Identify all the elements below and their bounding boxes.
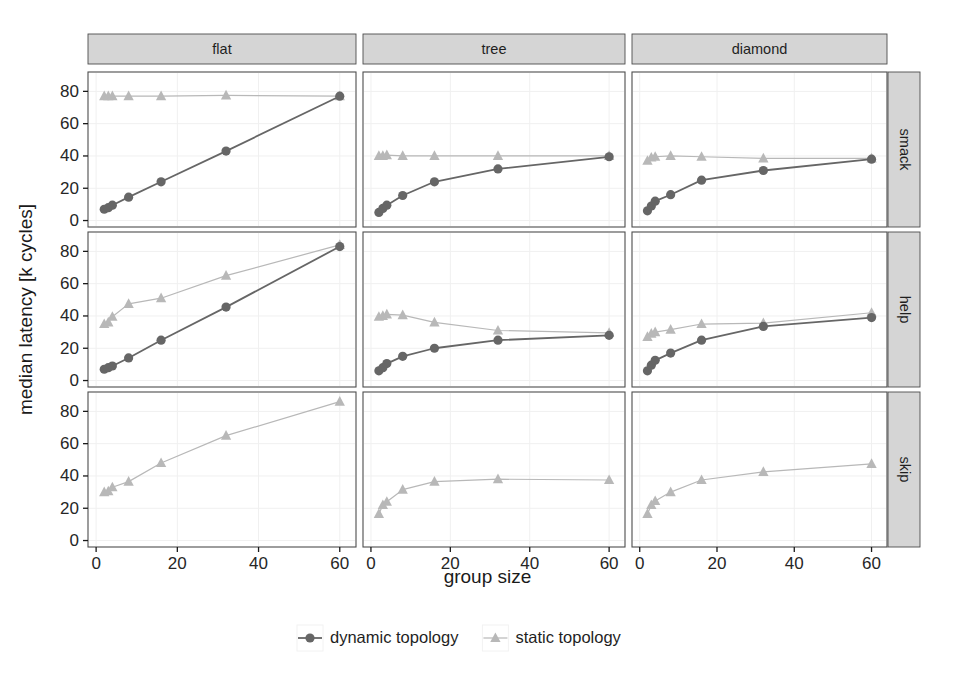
data-point-dynamic bbox=[382, 359, 391, 368]
data-point-dynamic bbox=[382, 201, 391, 210]
panel-tree-smack bbox=[363, 72, 625, 227]
data-point-dynamic bbox=[430, 344, 439, 353]
y-axis-title: median latency [k cycles] bbox=[15, 204, 36, 415]
x-tick-label: 40 bbox=[785, 554, 804, 573]
panel-flat-skip bbox=[88, 392, 356, 547]
y-tick-label: 40 bbox=[60, 466, 79, 485]
y-tick-label: 0 bbox=[70, 531, 79, 550]
panel-frame bbox=[363, 392, 625, 547]
facet-strip-row-skip: skip bbox=[888, 392, 920, 547]
x-tick-label: 0 bbox=[366, 554, 375, 573]
panel-diamond-skip bbox=[632, 392, 887, 547]
y-tick-label: 0 bbox=[70, 211, 79, 230]
data-point-dynamic bbox=[156, 177, 165, 186]
panel-frame bbox=[363, 232, 625, 387]
data-point-dynamic bbox=[124, 353, 133, 362]
y-tick-label: 80 bbox=[60, 242, 79, 261]
panel-flat-smack bbox=[88, 72, 356, 227]
data-point-dynamic bbox=[759, 322, 768, 331]
data-point-dynamic bbox=[651, 197, 660, 206]
data-point-dynamic bbox=[221, 302, 230, 311]
x-tick-label: 20 bbox=[708, 554, 727, 573]
data-point-dynamic bbox=[124, 193, 133, 202]
data-point-dynamic bbox=[493, 336, 502, 345]
x-tick-label: 40 bbox=[249, 554, 268, 573]
legend-marker-circle-icon bbox=[305, 633, 314, 642]
data-point-dynamic bbox=[156, 336, 165, 345]
data-point-dynamic bbox=[605, 152, 614, 161]
strip-label: diamond bbox=[732, 41, 788, 57]
data-point-dynamic bbox=[221, 147, 230, 156]
x-tick-label: 60 bbox=[330, 554, 349, 573]
data-point-dynamic bbox=[335, 92, 344, 101]
legend-label: dynamic topology bbox=[330, 628, 459, 646]
facet-strip-row-smack: smack bbox=[888, 72, 920, 227]
panel-diamond-smack bbox=[632, 72, 887, 227]
data-point-dynamic bbox=[759, 166, 768, 175]
x-axis-title: group size bbox=[444, 566, 532, 587]
y-tick-label: 0 bbox=[70, 371, 79, 390]
y-tick-label: 20 bbox=[60, 339, 79, 358]
faceted-line-chart: flattreediamondsmackhelpskip 02040608002… bbox=[0, 0, 954, 678]
data-point-dynamic bbox=[108, 361, 117, 370]
data-point-dynamic bbox=[493, 164, 502, 173]
y-tick-label: 60 bbox=[60, 114, 79, 133]
panel-tree-help bbox=[363, 232, 625, 387]
y-tick-label: 60 bbox=[60, 434, 79, 453]
strip-label: smack bbox=[897, 129, 913, 172]
facet-strip-col-flat: flat bbox=[88, 34, 356, 64]
panel-diamond-help bbox=[632, 232, 887, 387]
data-point-dynamic bbox=[398, 191, 407, 200]
panel-frame bbox=[632, 392, 887, 547]
data-point-dynamic bbox=[666, 190, 675, 199]
x-tick-label: 0 bbox=[91, 554, 100, 573]
data-point-dynamic bbox=[651, 356, 660, 365]
y-tick-label: 20 bbox=[60, 179, 79, 198]
x-tick-label: 60 bbox=[862, 554, 881, 573]
chart-figure: flattreediamondsmackhelpskip 02040608002… bbox=[0, 0, 954, 678]
facet-strip-row-help: help bbox=[888, 232, 920, 387]
data-point-dynamic bbox=[697, 176, 706, 185]
y-tick-label: 80 bbox=[60, 82, 79, 101]
data-point-dynamic bbox=[398, 352, 407, 361]
panels-layer bbox=[88, 72, 887, 547]
data-point-dynamic bbox=[605, 331, 614, 340]
x-tick-label: 20 bbox=[168, 554, 187, 573]
panel-tree-skip bbox=[363, 392, 625, 547]
panel-frame bbox=[632, 232, 887, 387]
strip-label: help bbox=[897, 296, 913, 323]
data-point-dynamic bbox=[697, 336, 706, 345]
y-tick-label: 40 bbox=[60, 306, 79, 325]
panel-flat-help bbox=[88, 232, 356, 387]
y-tick-label: 80 bbox=[60, 402, 79, 421]
x-tick-label: 60 bbox=[600, 554, 619, 573]
y-tick-label: 20 bbox=[60, 499, 79, 518]
strip-label: skip bbox=[897, 457, 913, 483]
facet-strip-col-tree: tree bbox=[363, 34, 625, 64]
data-point-dynamic bbox=[666, 348, 675, 357]
data-point-dynamic bbox=[108, 201, 117, 210]
x-tick-label: 0 bbox=[635, 554, 644, 573]
strip-label: tree bbox=[482, 41, 507, 57]
y-tick-label: 60 bbox=[60, 274, 79, 293]
panel-frame bbox=[363, 72, 625, 227]
panel-frame bbox=[632, 72, 887, 227]
panel-frame bbox=[88, 392, 356, 547]
strip-label: flat bbox=[212, 41, 231, 57]
data-point-dynamic bbox=[430, 177, 439, 186]
data-point-dynamic bbox=[867, 313, 876, 322]
data-point-dynamic bbox=[335, 242, 344, 251]
legend-label: static topology bbox=[515, 628, 621, 646]
facet-strip-col-diamond: diamond bbox=[632, 34, 887, 64]
data-point-dynamic bbox=[867, 155, 876, 164]
y-tick-label: 40 bbox=[60, 146, 79, 165]
